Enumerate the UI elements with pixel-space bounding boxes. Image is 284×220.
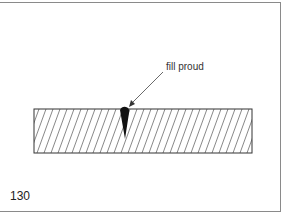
leader-arrow (129, 72, 163, 107)
figure-number: 130 (10, 189, 30, 203)
hatched-board-section (23, 109, 263, 153)
annotation-label: fill proud (166, 61, 204, 72)
diagram (0, 0, 284, 220)
